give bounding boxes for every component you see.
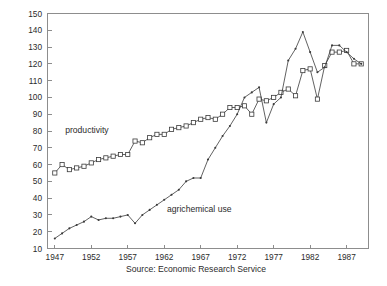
data-point-marker <box>199 117 203 121</box>
x-tick-label: 1947 <box>46 252 65 262</box>
data-point-marker <box>360 63 362 65</box>
data-point-marker <box>258 86 260 88</box>
x-tick-label: 1972 <box>228 252 247 262</box>
data-point-marker <box>155 132 159 136</box>
data-point-marker <box>324 66 326 68</box>
x-tick-label: 1982 <box>301 252 320 262</box>
data-point-marker <box>184 124 188 128</box>
data-point-marker <box>213 117 217 121</box>
data-point-marker <box>308 67 312 71</box>
data-point-marker <box>169 127 173 131</box>
x-tick-label: 1967 <box>191 252 210 262</box>
data-point-marker <box>222 135 224 137</box>
data-point-marker <box>191 121 195 125</box>
data-point-marker <box>90 216 92 218</box>
series-productivity <box>53 48 364 175</box>
data-point-marker <box>287 59 289 61</box>
x-tick-label: 1952 <box>82 252 101 262</box>
data-point-marker <box>302 31 304 33</box>
data-point-marker <box>316 71 318 73</box>
data-point-marker <box>133 139 137 143</box>
y-tick-label: 20 <box>33 227 43 237</box>
series-line <box>55 50 361 173</box>
x-tick-label: 1987 <box>337 252 356 262</box>
data-point-marker <box>61 232 63 234</box>
data-point-marker <box>280 96 282 98</box>
data-point-marker <box>200 177 202 179</box>
data-point-marker <box>170 194 172 196</box>
data-point-marker <box>207 158 209 160</box>
data-point-marker <box>353 58 355 60</box>
data-point-marker <box>96 157 100 161</box>
data-point-marker <box>177 126 181 130</box>
data-point-marker <box>104 156 108 160</box>
data-point-marker <box>272 95 276 99</box>
data-point-marker <box>83 221 85 223</box>
data-point-marker <box>264 99 268 103</box>
data-point-marker <box>149 209 151 211</box>
data-point-marker <box>53 171 57 175</box>
y-tick-label: 10 <box>33 244 43 254</box>
y-tick-label: 150 <box>28 9 42 19</box>
productivity-vs-agrichemical-use-line-chart: 102030405060708090100110120130140150 194… <box>0 0 387 286</box>
data-point-marker <box>293 94 297 98</box>
y-tick-label: 140 <box>28 25 42 35</box>
data-point-marker <box>352 62 356 66</box>
data-point-marker <box>134 222 136 224</box>
x-tick-label: 1957 <box>119 252 138 262</box>
data-point-marker <box>105 217 107 219</box>
data-point-marker <box>346 51 348 53</box>
data-point-marker <box>127 214 129 216</box>
data-point-marker <box>60 162 64 166</box>
data-point-marker <box>214 147 216 149</box>
data-point-marker <box>265 122 267 124</box>
y-tick-label: 40 <box>33 193 43 203</box>
data-point-marker <box>220 112 224 116</box>
data-point-marker <box>250 112 254 116</box>
source-caption: Source: Economic Research Service <box>126 264 266 274</box>
y-tick-label: 100 <box>28 92 42 102</box>
data-point-marker <box>141 214 143 216</box>
y-tick-label: 110 <box>29 76 43 86</box>
data-point-marker <box>140 141 144 145</box>
data-point-marker <box>235 105 239 109</box>
data-point-marker <box>54 237 56 239</box>
y-tick-label: 90 <box>33 109 43 119</box>
data-point-marker <box>331 44 333 46</box>
data-point-marker <box>118 152 122 156</box>
data-point-marker <box>251 91 253 93</box>
chart-figure: 102030405060708090100110120130140150 194… <box>0 0 387 286</box>
data-point-marker <box>162 132 166 136</box>
data-point-marker <box>337 50 341 54</box>
data-point-marker <box>315 97 319 101</box>
y-tick-label: 60 <box>33 160 43 170</box>
data-point-marker <box>76 224 78 226</box>
data-point-marker <box>295 48 297 50</box>
x-tick-label: 1977 <box>264 252 283 262</box>
series-annotation-productivity: productivity <box>65 125 109 135</box>
data-point-marker <box>309 51 311 53</box>
y-tick-label: 80 <box>33 126 43 136</box>
data-point-marker <box>236 113 238 115</box>
y-tick-label: 130 <box>28 42 42 52</box>
y-tick-label: 30 <box>33 210 43 220</box>
data-point-marker <box>89 161 93 165</box>
data-point-marker <box>163 199 165 201</box>
data-point-marker <box>178 189 180 191</box>
data-point-marker <box>286 87 290 91</box>
data-point-marker <box>192 177 194 179</box>
x-axis-tick-group: 194719521957196219671972197719821987 <box>46 245 357 262</box>
data-point-marker <box>148 136 152 140</box>
data-point-marker <box>75 166 79 170</box>
data-point-marker <box>301 68 305 72</box>
data-point-marker <box>242 104 246 108</box>
data-point-marker <box>112 217 114 219</box>
data-point-marker <box>111 154 115 158</box>
data-point-marker <box>67 168 71 172</box>
y-tick-label: 50 <box>33 176 43 186</box>
y-tick-label: 70 <box>33 143 43 153</box>
data-point-marker <box>273 103 275 105</box>
series-annotation-agrichemical-use: agrichemical use <box>167 204 232 214</box>
data-point-marker <box>338 44 340 46</box>
data-point-marker <box>98 219 100 221</box>
